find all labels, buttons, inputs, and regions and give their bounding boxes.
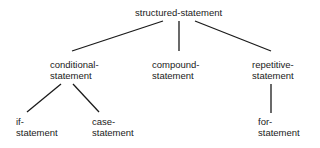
node-label-line2: statement [152, 70, 200, 81]
node-for-statement: for- statement [258, 116, 300, 138]
node-label-line1: repetitive- [252, 59, 294, 70]
node-label-line1: for- [258, 116, 300, 127]
node-repetitive-statement: repetitive- statement [252, 59, 294, 81]
node-label-line2: statement [252, 70, 294, 81]
node-compound-statement: compound- statement [152, 59, 200, 81]
node-case-statement: case- statement [92, 116, 134, 138]
node-label-line2: statement [50, 70, 99, 81]
node-label-line1: if- [16, 116, 58, 127]
node-conditional-statement: conditional- statement [50, 59, 99, 81]
node-structured-statement: structured-statement [135, 7, 222, 18]
edge-structured-conditional [72, 21, 163, 51]
edge-conditional-if [27, 84, 61, 112]
node-label-line2: statement [258, 127, 300, 138]
edge-conditional-case [73, 84, 99, 112]
node-label-line2: statement [16, 127, 58, 138]
node-label-line1: compound- [152, 59, 200, 70]
edge-structured-repetitive [195, 21, 271, 51]
node-label-line1: case- [92, 116, 134, 127]
node-label: structured-statement [135, 7, 222, 18]
node-label-line1: conditional- [50, 59, 99, 70]
node-label-line2: statement [92, 127, 134, 138]
node-if-statement: if- statement [16, 116, 58, 138]
